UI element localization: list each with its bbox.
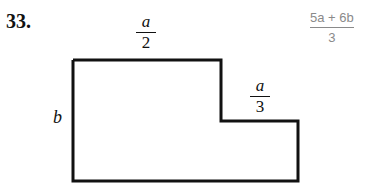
step-width-numerator: a [250, 77, 270, 95]
fraction-bar [310, 27, 354, 28]
height-label: b [53, 107, 62, 128]
answer-fraction: 5a + 6b 3 [310, 10, 354, 45]
step-width-denominator: 3 [250, 98, 270, 116]
top-width-numerator: a [136, 13, 156, 31]
top-width-label: a 2 [136, 13, 156, 52]
answer-numerator: 5a + 6b [310, 10, 354, 25]
answer-denominator: 3 [328, 30, 335, 45]
top-width-denominator: 2 [136, 34, 156, 52]
step-width-label: a 3 [250, 77, 270, 116]
